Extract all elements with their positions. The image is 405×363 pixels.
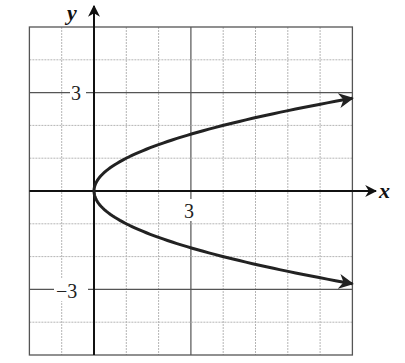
x-tick-3: 3 [184,200,194,222]
x-axis-label: x [378,178,390,203]
y-tick-3: 3 [71,82,81,104]
y-axis-label: y [64,0,77,25]
y-tick-neg3: −3 [56,280,77,302]
parabola-graph: x y 3 3 −3 [0,0,405,363]
